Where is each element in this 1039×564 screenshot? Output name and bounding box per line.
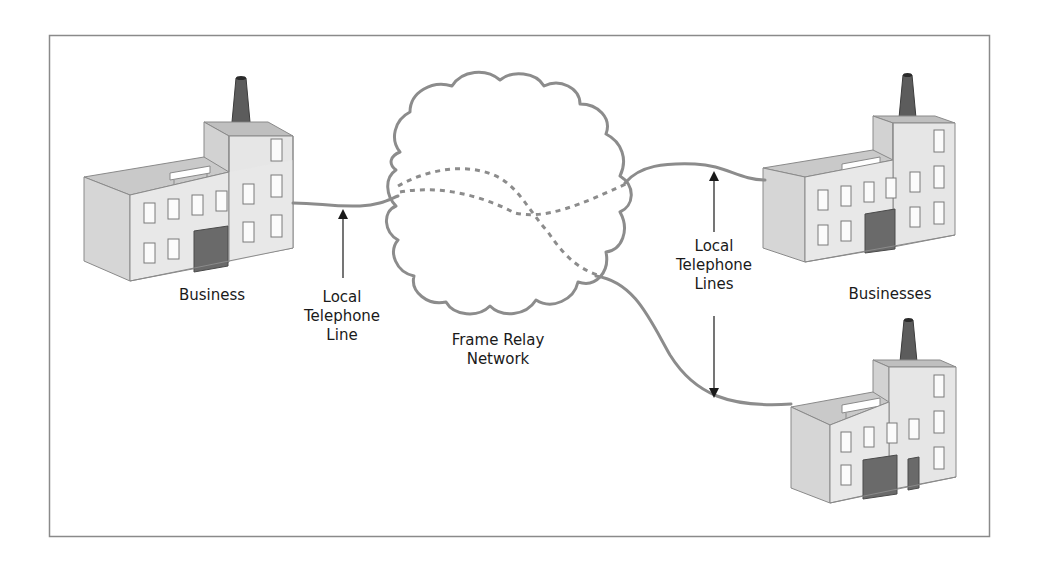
business-building-left: [84, 76, 293, 281]
local-telephone-line-left: [293, 196, 398, 206]
cloud-label-line-1: Frame Relay: [452, 331, 545, 350]
frame-relay-diagram: [0, 0, 1039, 564]
label-line-1: Local: [676, 237, 752, 256]
local-telephone-line-right-bottom: [596, 276, 791, 405]
label-line-2: Telephone: [304, 307, 380, 326]
frame-relay-cloud: [386, 72, 631, 314]
businesses-label-text: Businesses: [848, 285, 931, 304]
label-line-2: Telephone: [676, 256, 752, 275]
business-label: Business: [179, 286, 245, 305]
local-telephone-lines-label: Local Telephone Lines: [676, 237, 752, 294]
label-line-3: Lines: [676, 275, 752, 294]
cloud-label-line-2: Network: [452, 350, 545, 369]
local-telephone-line-right-top: [625, 164, 765, 183]
local-telephone-line-label: Local Telephone Line: [304, 288, 380, 345]
label-line-3: Line: [304, 326, 380, 345]
business-building-right-bottom: [791, 318, 956, 503]
businesses-label: Businesses: [848, 285, 931, 304]
frame-relay-network-label: Frame Relay Network: [452, 331, 545, 369]
business-building-right-top: [763, 73, 955, 262]
label-line-1: Local: [304, 288, 380, 307]
business-label-text: Business: [179, 286, 245, 305]
